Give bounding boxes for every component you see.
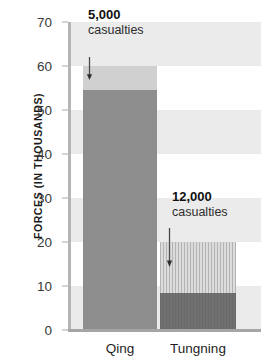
plot-area xyxy=(71,22,261,330)
annotation-qing-value: 5,000 xyxy=(88,8,144,23)
bar-qing[interactable] xyxy=(83,66,157,330)
y-tick-label-20: 20 xyxy=(18,235,52,250)
y-tick-label-60: 60 xyxy=(18,59,52,74)
bar-qing-casualties-segment xyxy=(83,66,157,90)
category-label-qing: Qing xyxy=(83,341,157,356)
category-label-tungning: Tungning xyxy=(160,341,236,356)
bar-qing-forces-segment xyxy=(83,90,157,330)
y-tick-label-0: 0 xyxy=(18,323,52,338)
y-axis-line xyxy=(68,22,71,331)
y-tick-label-70: 70 xyxy=(18,15,52,30)
annotation-qing: 5,000 casualties xyxy=(88,8,144,39)
annotation-qing-label: casualties xyxy=(88,23,144,39)
x-axis-line xyxy=(68,329,261,332)
y-tick-label-40: 40 xyxy=(18,147,52,162)
annotation-tungning-arrow xyxy=(165,228,174,268)
annotation-tungning-label: casualties xyxy=(172,205,228,221)
annotation-tungning: 12,000 casualties xyxy=(172,190,228,221)
y-tick-label-50: 50 xyxy=(18,103,52,118)
y-tick-label-30: 30 xyxy=(18,191,52,206)
bar-tungning-forces-segment xyxy=(160,293,236,330)
annotation-qing-arrow xyxy=(85,57,94,81)
y-tick-label-10: 10 xyxy=(18,279,52,294)
annotation-tungning-value: 12,000 xyxy=(172,190,228,205)
